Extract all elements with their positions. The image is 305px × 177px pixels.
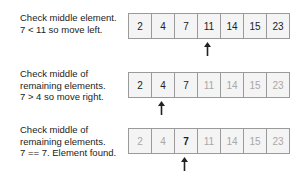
array-cell: 14: [221, 129, 244, 153]
step-2-caption: Check middle of remaining elements. 7 > …: [20, 68, 106, 103]
array-row: 2 4 7 11 14 15 23: [128, 72, 290, 98]
caption-line: remaining elements.: [20, 80, 106, 92]
array-cell: 4: [152, 129, 175, 153]
array-cell: 11: [198, 73, 221, 97]
array-cell: 15: [244, 73, 267, 97]
caption-line: remaining elements.: [20, 136, 116, 148]
array-cell: 14: [221, 73, 244, 97]
caption-line: Check middle of: [20, 68, 106, 80]
array-cell: 11: [198, 129, 221, 153]
step-3-caption: Check middle of remaining elements. 7 ==…: [20, 124, 116, 159]
up-arrow-icon: [157, 101, 166, 115]
found-cell: 7: [175, 129, 198, 153]
caption-line: 7 > 4 so move right.: [20, 91, 106, 103]
array-row: 2 4 7 11 14 15 23: [128, 128, 290, 154]
array-cell: 23: [267, 129, 289, 153]
array-cell: 2: [129, 129, 152, 153]
array-cell: 7: [175, 73, 198, 97]
caption-line: Check middle of: [20, 124, 116, 136]
step-3: Check middle of remaining elements. 7 ==…: [0, 0, 305, 56]
array-cell: 23: [267, 73, 289, 97]
caption-line: 7 == 7. Element found.: [20, 147, 116, 159]
array-cell: 4: [152, 73, 175, 97]
up-arrow-icon: [180, 157, 189, 171]
array-cell: 15: [244, 129, 267, 153]
array-cell: 2: [129, 73, 152, 97]
